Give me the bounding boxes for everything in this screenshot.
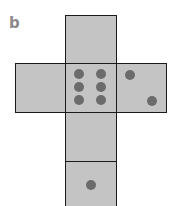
face-top bbox=[65, 15, 117, 64]
pip bbox=[96, 95, 106, 105]
pip bbox=[74, 95, 84, 105]
figure-label: b bbox=[9, 14, 20, 32]
pip bbox=[86, 180, 96, 190]
pip bbox=[147, 96, 157, 106]
face-center bbox=[65, 63, 117, 113]
face-left bbox=[15, 63, 66, 113]
pip bbox=[96, 69, 106, 79]
pip bbox=[96, 82, 106, 92]
pip bbox=[74, 69, 84, 79]
pip bbox=[74, 82, 84, 92]
face-right bbox=[116, 63, 167, 113]
face-lower bbox=[65, 112, 117, 162]
pip bbox=[125, 70, 135, 80]
face-bottom bbox=[65, 161, 117, 206]
